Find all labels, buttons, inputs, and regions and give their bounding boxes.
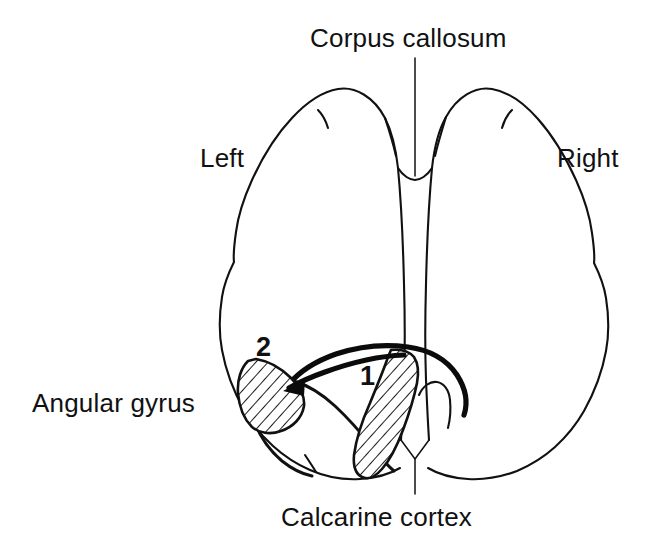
- anatomical-figure: Corpus callosum Left Right Angular gyrus…: [0, 0, 651, 552]
- right-dorsal-sulcus-tick: [502, 110, 512, 128]
- marker-1: 1: [360, 361, 375, 391]
- label-calcarine-cortex: Calcarine cortex: [281, 502, 472, 532]
- label-right: Right: [557, 143, 619, 173]
- region-2-angular-gyrus-shape: [238, 359, 304, 433]
- right-frontal-sulcus-tick: [435, 117, 446, 156]
- splenium-medial-bump: [419, 382, 450, 428]
- calcarine-fork: [401, 440, 429, 459]
- label-left: Left: [200, 143, 245, 173]
- right-medial-line: [425, 168, 432, 440]
- label-corpus-callosum: Corpus callosum: [310, 23, 507, 53]
- left-frontal-sulcus-tick: [385, 118, 396, 156]
- label-angular-gyrus: Angular gyrus: [32, 388, 195, 418]
- marker-2: 2: [256, 332, 271, 362]
- brain-diagram-svg: Corpus callosum Left Right Angular gyrus…: [0, 0, 651, 552]
- left-dorsal-sulcus-tick: [318, 110, 328, 128]
